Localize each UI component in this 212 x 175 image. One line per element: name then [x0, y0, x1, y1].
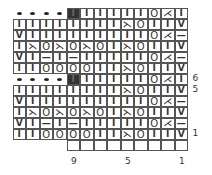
- stitch-cell: I: [121, 118, 135, 129]
- stitch-cell: I: [161, 19, 175, 30]
- dot-icon: [57, 12, 62, 15]
- stitch-cell: ⋋: [121, 63, 135, 74]
- stitch-cell: O: [134, 129, 148, 140]
- stitch-cell: I: [107, 96, 121, 107]
- stitch-cell: I: [134, 30, 148, 41]
- empty-cell: [26, 140, 40, 151]
- stitch-cell: ⋋: [121, 107, 135, 118]
- stitch-cell: I: [121, 74, 135, 85]
- stitch-cell: I: [134, 52, 148, 63]
- stitch-cell: V: [13, 30, 27, 41]
- no-stitch-dot-icon: [26, 8, 40, 19]
- stitch-cell: I: [107, 52, 121, 63]
- blank-cell: [134, 140, 148, 151]
- stitch-cell: O: [40, 107, 54, 118]
- stitch-cell: I: [67, 85, 81, 96]
- stitch-cell: O: [67, 129, 81, 140]
- blank-cell: [121, 140, 135, 151]
- stitch-cell: I: [80, 30, 94, 41]
- stitch-cell: I: [94, 96, 108, 107]
- stitch-cell: V: [13, 52, 27, 63]
- stitch-cell: I: [148, 85, 162, 96]
- stitch-cell: O: [148, 96, 162, 107]
- stitch-cell: I: [148, 41, 162, 52]
- stitch-cell: I: [26, 52, 40, 63]
- stitch-cell: O: [94, 107, 108, 118]
- stitch-cell: I: [53, 96, 67, 107]
- stitch-cell: O: [134, 107, 148, 118]
- stitch-cell: I: [94, 52, 108, 63]
- stitch-cell: I: [121, 8, 135, 19]
- stitch-cell: I: [13, 85, 27, 96]
- dot-icon: [17, 78, 22, 81]
- stitch-cell: V: [175, 41, 189, 52]
- stitch-cell: I: [26, 85, 40, 96]
- stitch-cell: I: [26, 19, 40, 30]
- stitch-cell: —: [175, 30, 189, 41]
- stitch-cell: O: [148, 30, 162, 41]
- stitch-cell: I: [80, 52, 94, 63]
- no-stitch-dot-icon: [13, 74, 27, 85]
- row-number-label: 6: [193, 73, 199, 83]
- stitch-cell: ⋋: [26, 107, 40, 118]
- stitch-cell: I: [148, 19, 162, 30]
- stitch-cell: ⋌: [161, 8, 175, 19]
- stitch-cell: I: [13, 107, 27, 118]
- blank-cell: [80, 140, 94, 151]
- stitch-cell: I: [53, 85, 67, 96]
- stitch-cell: I: [175, 74, 189, 85]
- stitch-cell: I: [148, 63, 162, 74]
- stitch-cell: O: [148, 74, 162, 85]
- stitch-cell: ⋌: [161, 96, 175, 107]
- stitch-cell: I: [26, 129, 40, 140]
- stitch-cell: ⋋: [121, 129, 135, 140]
- stitch-cell: I: [53, 19, 67, 30]
- blank-cell: [94, 140, 108, 151]
- stitch-cell: I: [67, 30, 81, 41]
- stitch-cell: I: [121, 96, 135, 107]
- stitch-cell: I: [107, 19, 121, 30]
- stitch-cell: I: [13, 19, 27, 30]
- stitch-cell: O: [134, 63, 148, 74]
- blank-cell: [148, 140, 162, 151]
- stitch-cell: I: [107, 41, 121, 52]
- blank-cell: [161, 140, 175, 151]
- stitch-cell: I: [94, 63, 108, 74]
- stitch-cell: I: [26, 96, 40, 107]
- stitch-cell: I: [148, 129, 162, 140]
- row-number-label: 1: [193, 128, 199, 138]
- stitch-cell: I: [94, 8, 108, 19]
- stitch-cell: I: [107, 129, 121, 140]
- stitch-cell: I: [80, 96, 94, 107]
- stitch-cell: ⋋: [53, 107, 67, 118]
- stitch-cell: I: [161, 129, 175, 140]
- stitch-cell: O: [40, 63, 54, 74]
- stitch-cell: I: [161, 41, 175, 52]
- blank-cell: [175, 140, 189, 151]
- stitch-cell: I: [134, 118, 148, 129]
- stitch-cell: I: [80, 74, 94, 85]
- stitch-cell: I: [94, 30, 108, 41]
- no-stitch-dot-icon: [40, 74, 54, 85]
- stitch-cell: I: [107, 107, 121, 118]
- stitch-cell: I: [121, 30, 135, 41]
- stitch-cell: I: [107, 30, 121, 41]
- stitch-cell: ⋌: [161, 52, 175, 63]
- stitch-cell: I: [134, 8, 148, 19]
- blank-cell: [107, 140, 121, 151]
- stitch-cell: O: [94, 41, 108, 52]
- no-stitch-dot-icon: [53, 74, 67, 85]
- stitch-cell: I: [94, 19, 108, 30]
- stitch-cell: ⋋: [80, 41, 94, 52]
- stitch-cell: I: [94, 118, 108, 129]
- stitch-cell: I: [107, 74, 121, 85]
- stitch-cell: I: [107, 63, 121, 74]
- stitch-cell: I: [148, 107, 162, 118]
- stitch-cell: I: [67, 96, 81, 107]
- stitch-cell: O: [67, 107, 81, 118]
- stitch-cell: O: [67, 41, 81, 52]
- stitch-cell: I: [94, 85, 108, 96]
- stitch-cell: O: [148, 52, 162, 63]
- stitch-cell: I: [175, 8, 189, 19]
- stitch-cell: —: [175, 96, 189, 107]
